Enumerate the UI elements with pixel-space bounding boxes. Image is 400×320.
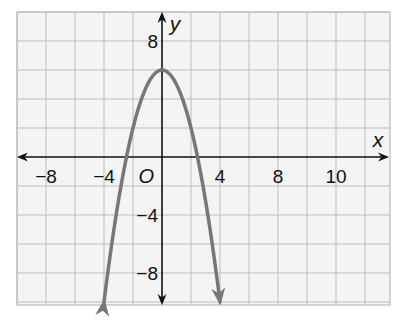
x-tick-label: 10 (325, 166, 346, 187)
parabola-graph: −8−448108−4−8Oxy (0, 0, 400, 320)
origin-label: O (138, 165, 154, 187)
x-tick-label: 4 (215, 166, 226, 187)
x-axis-title: x (372, 128, 385, 151)
x-tick-label: −4 (93, 166, 115, 187)
y-tick-label: −8 (136, 263, 158, 284)
y-tick-label: −4 (136, 205, 158, 226)
x-tick-label: 8 (273, 166, 284, 187)
y-axis-title: y (168, 12, 182, 35)
y-tick-label: 8 (147, 31, 158, 52)
x-tick-label: −8 (35, 166, 57, 187)
graph-frame (17, 12, 390, 305)
